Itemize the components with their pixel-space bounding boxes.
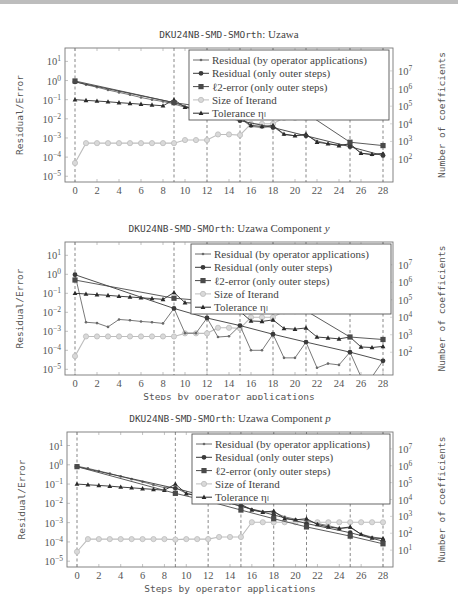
data-point (250, 349, 253, 352)
y-tick-label: 10−5 (45, 554, 64, 567)
x-tick-label: 22 (312, 378, 323, 389)
y-axis-label: Residual/Error (14, 75, 25, 155)
x-tick-label: 8 (162, 570, 167, 581)
y-tick-label: 10−4 (43, 150, 62, 163)
data-point (217, 336, 220, 339)
data-point (184, 332, 187, 335)
data-point (173, 537, 178, 542)
data-point (96, 322, 99, 325)
x-tick-label: 0 (72, 185, 77, 196)
legend-label: Residual (only outer steps) (212, 67, 331, 80)
x-tick-label: 16 (246, 378, 257, 389)
data-point (226, 132, 231, 137)
legend-label: Residual (only outer steps) (214, 261, 333, 274)
x-tick-label: 24 (334, 378, 345, 389)
x-tick-label: 20 (290, 378, 301, 389)
data-point (381, 153, 386, 158)
x-tick-label: 8 (160, 378, 165, 389)
data-point (261, 349, 264, 352)
data-point (304, 340, 309, 345)
y2-tick-label: 107 (398, 258, 413, 271)
data-point (238, 534, 243, 539)
data-point (127, 141, 132, 146)
chart-uzawa: DKU24NB-SMD-SMOrth: Uzawa024681012141618… (0, 0, 458, 200)
y2-tick-label: 103 (398, 134, 413, 147)
data-point (151, 321, 154, 324)
data-point (94, 334, 99, 339)
data-point (171, 141, 176, 146)
data-point (160, 141, 165, 146)
chart-title: DKU24NB-SMD-SMOrth: Uzawa (159, 28, 298, 40)
y-tick-label: 10−5 (43, 362, 62, 375)
y2-tick-label: 105 (398, 476, 413, 489)
data-point (381, 344, 386, 348)
y2-tick-label: 105 (398, 293, 413, 306)
x-tick-label: 2 (96, 570, 101, 581)
data-point (171, 296, 176, 301)
data-point (216, 534, 221, 539)
x-tick-label: 6 (138, 378, 143, 389)
data-point (73, 272, 78, 277)
y-tick-label: 10−2 (45, 496, 64, 509)
x-tick-label: 16 (247, 570, 258, 581)
y-tick-label: 10−1 (45, 477, 64, 490)
x-tick-label: 14 (224, 378, 235, 389)
chart-title: DKU24NB-SMD-SMOrth: Uzawa Component y (128, 222, 329, 234)
data-point (227, 534, 232, 539)
y-tick-label: 101 (47, 54, 62, 67)
data-point (348, 534, 353, 539)
data-point (205, 316, 210, 321)
legend-label: Residual (by operator applications) (215, 438, 370, 451)
data-point (75, 481, 80, 485)
data-point (171, 334, 176, 339)
x-tick-label: 20 (290, 185, 301, 196)
data-point (371, 376, 374, 379)
y2-tick-label: 107 (398, 64, 413, 77)
data-point (138, 334, 143, 339)
legend-label: Tolerance ηₗ (215, 491, 269, 503)
data-point (105, 141, 110, 146)
chart-title-component: y (324, 222, 330, 234)
x-tick-label: 6 (140, 570, 145, 581)
data-point (380, 337, 385, 342)
data-point (304, 325, 309, 329)
legend-marker (201, 468, 206, 473)
data-point (237, 132, 242, 137)
x-tick-label: 22 (312, 570, 323, 581)
chart-title-component: p (324, 412, 331, 424)
data-point (107, 326, 110, 329)
data-point (72, 354, 77, 359)
y2-tick-label: 106 (398, 459, 413, 472)
data-point (271, 125, 276, 130)
data-point (85, 537, 90, 542)
x-tick-label: 10 (180, 378, 191, 389)
y2-axis-label: Number of coefficients (436, 437, 447, 563)
data-point (118, 537, 123, 542)
legend-marker (198, 84, 203, 89)
chart-uzawa-component-y: DKU24NB-SMD-SMOrth: Uzawa Component y024… (0, 200, 458, 400)
y-tick-label: 100 (47, 267, 62, 280)
data-point (283, 357, 286, 360)
data-point (348, 144, 353, 149)
data-point (182, 137, 187, 142)
data-point (83, 141, 88, 146)
data-point (83, 334, 88, 339)
x-tick-label: 28 (378, 570, 389, 581)
data-point (348, 524, 353, 528)
data-point (172, 306, 177, 311)
x-tick-label: 10 (180, 185, 191, 196)
chart-title-method: : Uzawa (262, 28, 298, 40)
x-tick-label: 4 (118, 570, 124, 581)
data-point (160, 334, 165, 339)
data-point (172, 290, 177, 294)
chart-title-method: : Uzawa Component (231, 222, 324, 234)
data-point (238, 323, 243, 328)
data-point (73, 97, 78, 101)
legend-marker (198, 97, 203, 102)
data-point (347, 140, 352, 145)
legend-marker (202, 253, 205, 256)
data-point (151, 98, 154, 101)
data-point (304, 524, 309, 529)
y-tick-label: 10−4 (45, 535, 64, 548)
data-point (195, 537, 200, 542)
